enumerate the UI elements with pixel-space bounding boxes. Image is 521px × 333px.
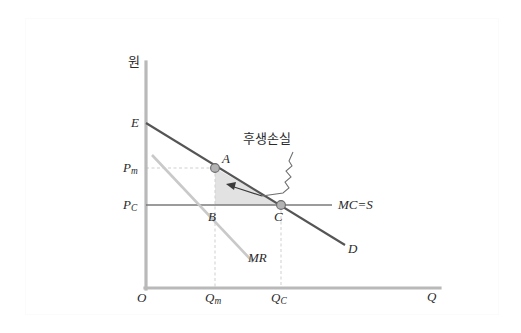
price-tick-pm: Pm	[123, 161, 138, 176]
origin-label: O	[137, 291, 146, 304]
point-label-a: A	[222, 152, 230, 165]
annotation-leader-line	[262, 152, 293, 196]
mc-supply-curve-label: MC=S	[338, 198, 373, 211]
price-tick-pc-sub: C	[131, 203, 137, 213]
quantity-tick-qc-sub: C	[280, 296, 286, 306]
quantity-tick-qc: QC	[271, 291, 287, 306]
quantity-tick-qm-base: Q	[205, 290, 214, 305]
marginal-revenue-curve	[152, 155, 253, 262]
economics-diagram	[0, 0, 521, 333]
price-tick-pc: PC	[123, 198, 137, 213]
marginal-revenue-curve-label: MR	[248, 251, 267, 264]
quantity-tick-qc-base: Q	[271, 290, 280, 305]
quantity-tick-qm-sub: m	[214, 296, 221, 306]
x-axis-label: Q	[427, 290, 436, 303]
price-tick-pc-base: P	[123, 197, 131, 212]
figure-screenshot: 원 Q O Pm PC Qm QC E A B C D MR MC=S 후생손실	[0, 0, 521, 333]
deadweight-loss-annotation-label: 후생손실	[243, 132, 291, 145]
point-marker-a	[211, 164, 220, 173]
point-label-e: E	[131, 116, 139, 129]
quantity-tick-qm: Qm	[205, 291, 221, 306]
point-label-c: C	[274, 210, 283, 223]
price-tick-pm-sub: m	[131, 166, 138, 176]
point-label-b: B	[208, 210, 216, 223]
demand-curve-label: D	[348, 242, 357, 255]
y-axis-unit-label: 원	[128, 55, 140, 68]
price-tick-pm-base: P	[123, 160, 131, 175]
